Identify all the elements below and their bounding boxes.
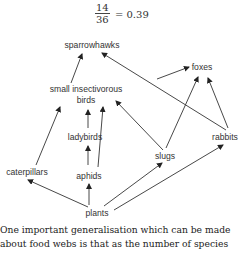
body-line-2: about food webs is that as the number of…: [0, 237, 241, 251]
food-web-diagram: sparrowhawks small insectivorous birds f…: [0, 0, 241, 222]
node-slugs: slugs: [155, 151, 175, 161]
node-birds-line1: small insectivorous: [50, 84, 123, 94]
node-ladybirds: ladybirds: [68, 132, 102, 142]
node-caterpillars: caterpillars: [6, 167, 48, 177]
arrow-caterpillars-to-birds: [36, 107, 60, 165]
node-rabbits: rabbits: [212, 132, 238, 142]
arrow-slugs-to-birds: [116, 101, 163, 150]
node-sparrowhawks: sparrowhawks: [65, 40, 120, 50]
node-aphids: aphids: [76, 171, 101, 181]
arrow-slugs-to-foxes: [166, 77, 198, 148]
body-paragraph: One important generalisation which can b…: [0, 223, 241, 250]
body-line-1: One important generalisation which can b…: [0, 223, 241, 237]
node-plants: plants: [86, 208, 109, 218]
node-foxes: foxes: [192, 62, 213, 72]
arrow-birds-to-foxes: [157, 67, 189, 79]
arrow-plants-to-caterpillars: [28, 180, 88, 207]
arrow-birds-to-sparrowhawks: [71, 54, 82, 83]
node-birds-line2: birds: [77, 95, 96, 105]
arrow-plants-to-slugs: [104, 163, 162, 206]
food-web-arrows: [28, 53, 228, 210]
